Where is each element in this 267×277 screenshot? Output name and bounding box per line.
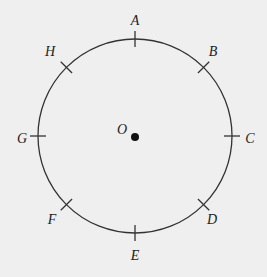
center-point-O	[131, 133, 139, 141]
point-label-a: A	[130, 13, 140, 28]
point-label-b: B	[209, 44, 218, 59]
center-label: O	[117, 122, 127, 137]
circle-diagram: ABCDEFGH O	[0, 0, 267, 277]
point-label-d: D	[206, 212, 217, 227]
point-label-c: C	[245, 131, 255, 146]
point-label-f: F	[47, 212, 57, 227]
point-label-g: G	[17, 131, 27, 146]
point-label-e: E	[130, 248, 140, 263]
point-label-h: H	[44, 44, 56, 59]
